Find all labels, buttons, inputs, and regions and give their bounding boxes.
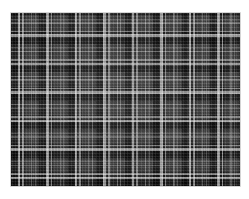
warp-thin-stripes (11, 13, 240, 186)
weft-thin-stripes (11, 13, 240, 186)
vertical-thread-texture (11, 13, 240, 186)
photo-grain-overlay (11, 13, 240, 186)
fabric-ground-check (11, 13, 240, 186)
dark-block-overcheck (11, 13, 240, 186)
plaid-fabric-swatch (11, 13, 240, 186)
horizontal-thread-texture (11, 13, 240, 186)
weft-white-stripes (11, 13, 240, 186)
image-canvas (0, 0, 249, 199)
warp-white-stripes (11, 13, 240, 186)
lighting-vignette (11, 13, 240, 186)
